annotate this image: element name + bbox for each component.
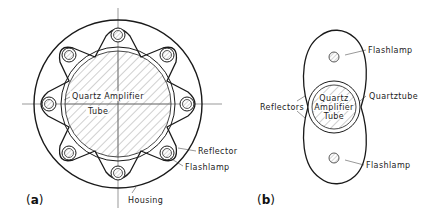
flashlamp-label: Flashlamp: [185, 163, 230, 172]
flashlamp-icon: [111, 28, 125, 42]
diagram-canvas: Quartz Amplifier Tube Reflector Flashlam…: [0, 0, 430, 221]
quartztube-label: Quartztube: [369, 92, 418, 101]
flashlamp-top-icon: [329, 52, 339, 62]
tube-b-label-line2: Amplifier: [314, 103, 354, 112]
tube-b-label-line1: Quartz: [319, 94, 348, 103]
flashlamp-icon: [42, 97, 56, 111]
reflector-label: Reflector: [198, 147, 238, 156]
housing-leader-line: [132, 187, 136, 193]
flashlamp-icon: [62, 146, 76, 160]
flashlamp-icon: [160, 146, 174, 160]
reflector-leader-line: [178, 148, 196, 151]
tube-b-label-line3: Tube: [323, 112, 344, 121]
reflectors-label: Reflectors: [260, 103, 304, 112]
flashlamp-icon: [160, 48, 174, 62]
tube-label-line2: Tube: [87, 107, 108, 116]
flashlamp-icon: [180, 97, 194, 111]
panel-label-b: (b): [257, 193, 275, 207]
flashlamp-icon: [62, 48, 76, 62]
flashlamp-top-leader: [345, 50, 366, 55]
figure-a: Quartz Amplifier Tube Reflector Flashlam…: [22, 8, 238, 208]
flashlamp-bottom-icon: [329, 153, 339, 163]
reflectors-leader-lower: [297, 111, 305, 118]
housing-label: Housing: [128, 196, 163, 205]
flashlamp-bottom-leader: [345, 160, 364, 165]
flashlamp-top-label: Flashlamp: [368, 46, 413, 55]
flashlamp-bottom-label: Flashlamp: [366, 161, 411, 170]
flashlamp-icon: [111, 166, 125, 180]
panel-label-a: (a): [26, 193, 43, 207]
reflectors-leader-upper: [297, 96, 305, 101]
figure-b: Quartz Amplifier Tube Flashlamp Flashlam…: [257, 30, 418, 207]
tube-label-line1: Quartz Amplifier: [72, 92, 144, 101]
